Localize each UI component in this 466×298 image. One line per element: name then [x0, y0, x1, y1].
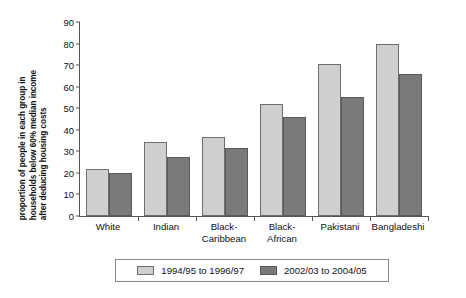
bar-group: [138, 22, 196, 216]
bar-series-1: [167, 157, 190, 216]
bar-series-1: [341, 97, 364, 216]
y-axis-title-line-1: proportion of people in each group in: [19, 76, 27, 220]
x-axis-category-label: Black-African: [253, 221, 311, 244]
y-axis-tick-label: 20: [63, 167, 74, 178]
bar-series-0: [202, 137, 225, 216]
y-axis-title-line-3: after deducing housing costs: [40, 107, 48, 220]
bar-series-0: [318, 64, 341, 216]
bar-series-0: [260, 104, 283, 216]
x-axis-labels: WhiteIndianBlack-CaribbeanBlack-AfricanP…: [79, 221, 427, 244]
x-axis-category-label: Black-Caribbean: [195, 221, 253, 244]
y-axis-tick-label: 10: [63, 189, 74, 200]
chart-legend: 1994/95 to 1996/97 2002/03 to 2004/05: [115, 259, 389, 282]
y-axis-tick-label: 50: [63, 103, 74, 114]
legend-label-series-1: 2002/03 to 2004/05: [284, 265, 367, 276]
bar-group: [370, 22, 428, 216]
bar-chart-figure: proportion of people in each group in ho…: [0, 0, 466, 298]
legend-item-series-0: 1994/95 to 1996/97: [137, 265, 244, 276]
bar-series-0: [376, 44, 399, 216]
bar-series-1: [283, 117, 306, 216]
bar-series-1: [399, 74, 422, 216]
y-axis-title-line-2: households below 60% median income: [29, 70, 37, 220]
x-axis-category-label: Pakistani: [311, 221, 369, 244]
legend-item-series-1: 2002/03 to 2004/05: [260, 265, 367, 276]
bar-group: [80, 22, 138, 216]
bar-group: [254, 22, 312, 216]
x-axis-category-label-line: Pakistani: [311, 221, 369, 233]
legend-swatch-icon-series-0: [137, 266, 154, 275]
x-axis-category-label-line: Black-: [253, 221, 311, 233]
x-axis-category-label-line: Indian: [137, 221, 195, 233]
x-axis-category-label-line: Black-: [195, 221, 253, 233]
plot-area: 0102030405060708090: [79, 22, 428, 217]
x-axis-category-label-line: African: [253, 233, 311, 245]
bar-series-0: [86, 169, 109, 216]
bar-series-1: [109, 173, 132, 216]
bar-group: [196, 22, 254, 216]
y-axis-tick-label: 30: [63, 146, 74, 157]
x-axis-category-label-line: Bangladeshi: [369, 221, 427, 233]
x-axis-category-label: Bangladeshi: [369, 221, 427, 244]
y-axis-tick-label: 0: [69, 211, 74, 222]
bars-layer: [80, 22, 428, 216]
x-axis-category-label: White: [79, 221, 137, 244]
y-axis-tick-label: 60: [63, 81, 74, 92]
bar-series-0: [144, 142, 167, 216]
x-axis-category-label-line: Caribbean: [195, 233, 253, 245]
x-axis-category-label: Indian: [137, 221, 195, 244]
x-axis-tick-mark: [428, 216, 429, 221]
y-axis-tick-label: 90: [63, 17, 74, 28]
bar-group: [312, 22, 370, 216]
y-axis-tick-label: 80: [63, 38, 74, 49]
y-axis-tick-label: 70: [63, 60, 74, 71]
x-axis-category-label-line: White: [79, 221, 137, 233]
bar-series-1: [225, 148, 248, 216]
legend-swatch-icon-series-1: [260, 266, 277, 275]
y-axis-tick-label: 40: [63, 124, 74, 135]
legend-label-series-0: 1994/95 to 1996/97: [161, 265, 244, 276]
